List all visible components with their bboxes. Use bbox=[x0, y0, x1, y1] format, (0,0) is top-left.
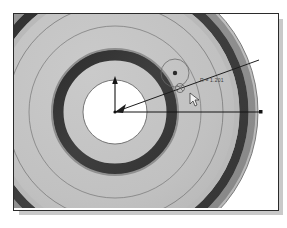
origin-point[interactable] bbox=[113, 110, 116, 113]
x-axis-endpoint[interactable] bbox=[259, 110, 263, 114]
center-snap-marker[interactable] bbox=[173, 71, 177, 75]
cad-canvas[interactable] bbox=[14, 14, 276, 208]
screenshot-root: R = 1.201 Concentric circular part with … bbox=[0, 0, 287, 228]
radius-dimension-label: R = 1.201 bbox=[200, 77, 224, 83]
cad-drawing-frame[interactable]: R = 1.201 bbox=[13, 13, 279, 211]
